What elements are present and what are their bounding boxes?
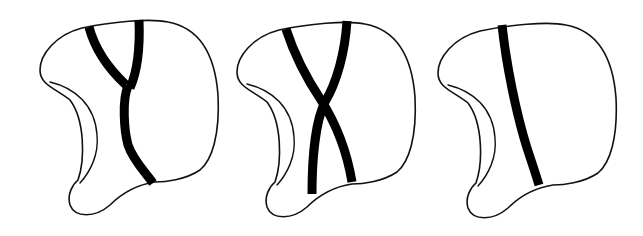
panel-2 [237, 21, 415, 217]
panel-1-band-right-branch [130, 20, 139, 88]
panel-1-fold [50, 82, 97, 183]
panel-1-outline [40, 20, 218, 214]
panel-3-band [502, 25, 539, 185]
panel-1 [40, 20, 218, 215]
panel-2-outline [237, 22, 415, 216]
figure-canvas [0, 0, 643, 236]
panel-1-band-left-branch [89, 27, 126, 85]
panel-1-band-trunk [124, 86, 153, 183]
panel-2-fold [247, 84, 294, 185]
panel-3-outline [438, 23, 616, 217]
panel-3-fold [448, 85, 495, 186]
panel-3 [438, 23, 616, 217]
